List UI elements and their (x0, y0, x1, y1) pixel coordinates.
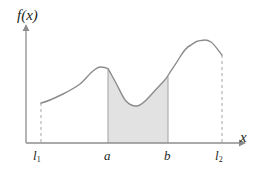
function-curve (41, 40, 222, 106)
tick-label-b: b (164, 149, 171, 162)
tick-label-l2: l2 (215, 149, 223, 162)
tick-label-l1: l1 (33, 149, 41, 162)
area-under-curve-plot (0, 0, 258, 171)
tick-label-l1-subscript: 1 (37, 155, 41, 164)
tick-label-a: a (104, 149, 111, 162)
x-axis-label: x (240, 130, 247, 145)
tick-label-l2-subscript: 2 (219, 155, 223, 164)
y-axis-arrowhead (23, 24, 30, 31)
figure-container: f(x) x l1 a b l2 (0, 0, 258, 171)
y-axis-label: f(x) (17, 8, 38, 23)
